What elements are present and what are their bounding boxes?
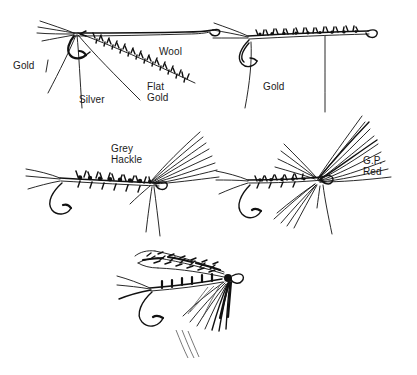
fly-top-left: [37, 21, 220, 108]
stray-pencil-strokes: [176, 330, 199, 358]
gp-red-collar-down: [274, 184, 317, 228]
fly-top-right: [213, 23, 377, 112]
label-silver: Silver: [79, 94, 105, 106]
label-flat-gold-line1: Flat: [147, 81, 164, 93]
grey-hackle-wing: [152, 132, 219, 184]
wool-barb-texture: [93, 33, 189, 82]
fly-bottom: [117, 251, 243, 331]
body-rib-texture-midright: [255, 174, 306, 188]
label-wool: Wool: [159, 46, 182, 58]
fly-tying-figure: Gold Silver Flat Gold Wool Gold Grey Hac…: [0, 0, 417, 375]
label-gold-left: Gold: [13, 60, 35, 72]
fly-illustration-canvas: [0, 0, 417, 375]
label-grey-hackle-line1: Grey: [111, 143, 133, 155]
label-flat-gold-line2: Gold: [147, 92, 169, 104]
label-gp-red-line2: Red: [363, 166, 382, 178]
label-grey-hackle-line2: Hackle: [111, 154, 142, 166]
label-gold-right: Gold: [263, 81, 285, 93]
body-rib-texture-right: [256, 26, 358, 36]
label-gp-red-line1: G.P.: [363, 155, 382, 167]
bottom-fly-pale-hackle: [188, 285, 220, 317]
